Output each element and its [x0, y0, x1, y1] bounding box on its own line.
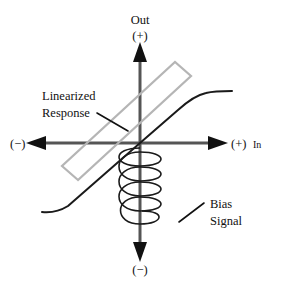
- annotation-signal: Signal: [210, 214, 242, 228]
- up-arrow-icon: [133, 42, 147, 62]
- bias-signal-leader-line: [179, 203, 204, 222]
- axis-label-out-sign: (+): [132, 29, 147, 43]
- annotation-response: Response: [42, 106, 90, 120]
- figure-container: Out (+) (−) (−) (+) In Linearized Respon…: [0, 0, 288, 281]
- down-arrow-icon: [133, 242, 147, 262]
- axis-label-in-negative: (−): [10, 137, 25, 151]
- axis-group: [26, 42, 228, 262]
- right-arrow-icon: [208, 136, 228, 150]
- annotation-linearized: Linearized: [42, 89, 96, 103]
- axis-label-out: Out: [131, 13, 150, 27]
- linearized-band-shape: [62, 62, 191, 180]
- left-arrow-icon: [26, 136, 46, 150]
- transfer-function-diagram: Out (+) (−) (−) (+) In Linearized Respon…: [0, 0, 288, 281]
- axis-label-in: In: [253, 139, 261, 150]
- annotation-bias: Bias: [210, 197, 232, 211]
- axis-label-in-positive: (+): [231, 137, 246, 151]
- axis-label-out-negative: (−): [132, 263, 147, 277]
- linearized-response-band: [62, 62, 191, 180]
